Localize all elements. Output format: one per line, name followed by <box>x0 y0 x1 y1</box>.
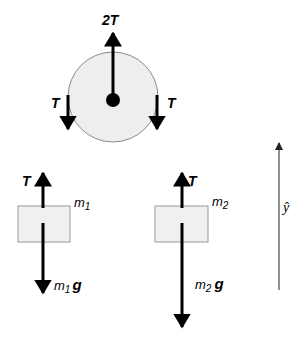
pulley-right-force-label: T <box>167 95 177 111</box>
block-1-tension-label: T <box>22 173 32 189</box>
pulley-left-force-label: T <box>51 95 61 111</box>
block-2: T m2 m2g <box>155 173 229 327</box>
block-1-mass-label: m1 <box>74 195 90 212</box>
block-1-weight-label: m1g <box>54 276 82 295</box>
block-2-tension-label: T <box>188 173 198 189</box>
block-2-mass-label: m2 <box>212 194 229 211</box>
pulley-up-force-label: 2T <box>101 12 120 28</box>
y-axis: ŷ <box>279 143 290 290</box>
block-2-weight-label: m2g <box>195 275 224 294</box>
free-body-diagram: 2T T T T m1 m1g T m2 m2g ŷ <box>0 0 308 344</box>
block-1: T m1 m1g <box>18 173 90 295</box>
pulley: 2T T T <box>51 12 177 142</box>
y-axis-label: ŷ <box>281 200 290 215</box>
pulley-axle-dot <box>106 93 120 107</box>
